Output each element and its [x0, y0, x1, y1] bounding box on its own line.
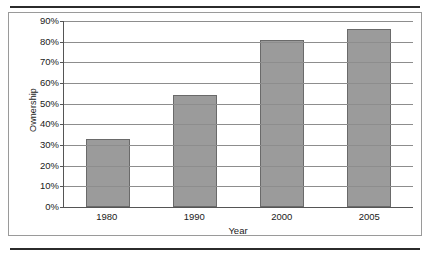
y-axis-tickmark — [60, 166, 64, 167]
y-axis-tick-label: 0% — [19, 202, 59, 212]
x-axis-tick-label: 1980 — [63, 211, 151, 225]
y-axis-tickmark — [60, 186, 64, 187]
y-axis-tick-label: 90% — [19, 16, 59, 26]
gridline — [64, 62, 413, 63]
bar-chart: Ownership 0%10%20%30%40%50%60%70%80%90% … — [8, 12, 422, 236]
y-axis-tick-label: 30% — [19, 140, 59, 150]
y-axis-tick-label: 50% — [19, 99, 59, 109]
y-axis-tickmark — [60, 145, 64, 146]
y-axis-tickmark — [60, 124, 64, 125]
bar-1990[interactable] — [173, 95, 217, 207]
gridline — [64, 145, 413, 146]
y-axis-tickmark — [60, 21, 64, 22]
y-axis-tick-label: 40% — [19, 120, 59, 130]
bar-2000[interactable] — [260, 40, 304, 207]
y-axis-tickmark — [60, 83, 64, 84]
bar-slot — [326, 21, 413, 207]
gridline — [64, 21, 413, 22]
y-axis-tick-label: 10% — [19, 182, 59, 192]
bar-slot — [151, 21, 238, 207]
y-axis-tickmark — [60, 104, 64, 105]
gridline — [64, 124, 413, 125]
y-axis-tick-label: 20% — [19, 161, 59, 171]
gridline — [64, 104, 413, 105]
bar-slot — [239, 21, 326, 207]
bar-series — [64, 21, 413, 207]
bar-slot — [64, 21, 151, 207]
y-axis-tick-label: 60% — [19, 78, 59, 88]
y-axis-tickmark — [60, 42, 64, 43]
x-axis-tick-label: 2000 — [238, 211, 326, 225]
x-axis-tick-label: 1990 — [151, 211, 239, 225]
document-rule-top — [10, 6, 420, 8]
x-axis-tick-label: 2005 — [326, 211, 414, 225]
y-axis-tick-labels: 0%10%20%30%40%50%60%70%80%90% — [19, 21, 59, 207]
y-axis-tick-label: 80% — [19, 37, 59, 47]
x-axis-tick-labels: 1980199020002005 — [63, 211, 413, 225]
bar-1980[interactable] — [86, 139, 130, 207]
plot-area — [63, 21, 413, 208]
gridline — [64, 83, 413, 84]
y-axis-tickmark — [60, 207, 64, 208]
bar-2005[interactable] — [347, 29, 391, 207]
y-axis-tick-label: 70% — [19, 58, 59, 68]
gridline — [64, 42, 413, 43]
x-axis-title: Year — [63, 225, 413, 236]
gridline — [64, 166, 413, 167]
document-rule-bottom — [10, 248, 420, 250]
y-axis-tickmark — [60, 62, 64, 63]
gridline — [64, 186, 413, 187]
